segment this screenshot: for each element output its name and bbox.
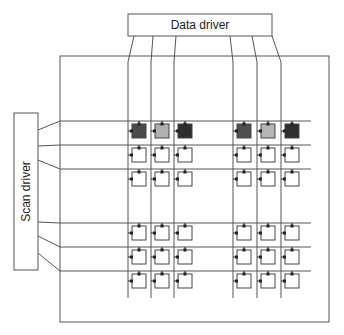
tft-node <box>153 130 156 133</box>
tft-node <box>184 249 187 252</box>
tft-node <box>138 249 141 252</box>
tft-node <box>184 273 187 276</box>
tft-node <box>283 178 286 181</box>
tft-node <box>267 225 270 228</box>
tft-node <box>267 273 270 276</box>
pixel-cell <box>178 172 192 186</box>
tft-node <box>259 154 262 157</box>
tft-node <box>243 249 246 252</box>
tft-node <box>291 249 294 252</box>
tft-node <box>267 249 270 252</box>
tft-node <box>161 123 164 126</box>
pixel-cell <box>178 124 192 138</box>
tft-node <box>267 147 270 150</box>
tft-node <box>130 280 133 283</box>
tft-node <box>235 154 238 157</box>
tft-node <box>176 256 179 259</box>
pixel-cell <box>178 226 192 240</box>
pixel-cell <box>178 148 192 162</box>
pixel-cell <box>155 124 169 138</box>
data-fanout-line <box>230 36 233 62</box>
tft-node <box>259 256 262 259</box>
pixel-cell <box>261 274 275 288</box>
tft-node <box>267 171 270 174</box>
tft-node <box>153 178 156 181</box>
pixel-cell <box>237 172 251 186</box>
scan-fanout-line <box>38 222 60 223</box>
tft-node <box>161 273 164 276</box>
tft-node <box>235 130 238 133</box>
tft-node <box>176 232 179 235</box>
tft-node <box>130 256 133 259</box>
scan-fanout-line <box>38 236 60 247</box>
tft-node <box>291 123 294 126</box>
pixel-cell <box>132 274 146 288</box>
tft-node <box>291 147 294 150</box>
scan-fanout-line <box>38 145 60 146</box>
tft-node <box>176 130 179 133</box>
data-fanout-line <box>151 36 153 62</box>
tft-node <box>291 171 294 174</box>
pixel-cell <box>285 250 299 264</box>
pixel-cell <box>285 226 299 240</box>
data-driver-text: Data driver <box>171 18 230 32</box>
tft-node <box>259 280 262 283</box>
tft-node <box>235 280 238 283</box>
tft-node <box>291 273 294 276</box>
tft-node <box>176 280 179 283</box>
tft-node <box>235 232 238 235</box>
pixel-cell <box>261 148 275 162</box>
tft-node <box>283 130 286 133</box>
tft-node <box>138 123 141 126</box>
tft-node <box>176 154 179 157</box>
tft-node <box>184 123 187 126</box>
data-fanout-line <box>174 36 176 62</box>
pixel-cell <box>237 148 251 162</box>
scan-fanout-line <box>38 160 60 169</box>
pixel-cell <box>132 172 146 186</box>
pixel-cell <box>285 274 299 288</box>
tft-node <box>138 273 141 276</box>
tft-node <box>235 256 238 259</box>
pixel-cell <box>132 250 146 264</box>
tft-node <box>243 273 246 276</box>
pixel-cell <box>155 226 169 240</box>
tft-node <box>259 178 262 181</box>
pixel-cell <box>261 250 275 264</box>
pixel-cell <box>155 274 169 288</box>
tft-node <box>291 225 294 228</box>
tft-node <box>153 280 156 283</box>
pixel-cell <box>261 226 275 240</box>
tft-node <box>176 178 179 181</box>
tft-node <box>283 232 286 235</box>
data-fanout-line <box>252 36 257 62</box>
pixel-cell <box>237 226 251 240</box>
data-fanout-line <box>272 36 281 62</box>
tft-node <box>153 232 156 235</box>
pixel-cell <box>132 226 146 240</box>
tft-node <box>259 232 262 235</box>
scan-fanout-line <box>38 253 60 271</box>
tft-node <box>283 154 286 157</box>
pixel-cell <box>237 124 251 138</box>
tft-node <box>235 178 238 181</box>
tft-node <box>243 171 246 174</box>
data-fanout-line <box>128 36 134 62</box>
lcd-matrix-diagram: Data driverScan driver <box>0 0 344 335</box>
pixel-cell <box>285 124 299 138</box>
scan-fanout-line <box>38 121 60 130</box>
tft-node <box>161 225 164 228</box>
tft-node <box>130 232 133 235</box>
pixel-cell <box>132 124 146 138</box>
tft-node <box>161 171 164 174</box>
tft-node <box>138 225 141 228</box>
pixel-cell <box>132 148 146 162</box>
tft-node <box>243 225 246 228</box>
pixel-cell <box>261 172 275 186</box>
pixel-cell <box>155 250 169 264</box>
tft-node <box>138 147 141 150</box>
tft-node <box>184 147 187 150</box>
tft-node <box>243 123 246 126</box>
tft-node <box>138 171 141 174</box>
pixel-cell <box>261 124 275 138</box>
